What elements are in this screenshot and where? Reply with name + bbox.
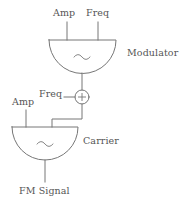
fm-signal-output-label: FM Signal bbox=[19, 186, 70, 196]
sum-to-carrier-wire bbox=[52, 104, 82, 127]
carrier-amp-label: Amp bbox=[12, 97, 34, 107]
modulator-oscillator-shape bbox=[49, 40, 116, 74]
carrier-sine-icon bbox=[37, 142, 53, 147]
modulator-freq-label: Freq bbox=[86, 8, 109, 18]
sum-node-freq-label: Freq bbox=[39, 89, 62, 99]
fm-synthesis-diagram: Amp Freq Modulator Freq Amp Carrier FM S… bbox=[0, 0, 184, 207]
carrier-label: Carrier bbox=[83, 136, 119, 146]
modulator-label: Modulator bbox=[127, 48, 178, 58]
modulator-amp-label: Amp bbox=[53, 8, 75, 18]
modulator-sine-icon bbox=[74, 55, 90, 60]
